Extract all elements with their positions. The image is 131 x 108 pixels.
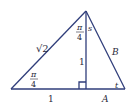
- label-angle-bl-den: 4: [31, 80, 36, 89]
- label-angle-bl-num: π: [30, 70, 37, 79]
- label-base-left: 1: [48, 94, 54, 104]
- side-right: [86, 11, 125, 89]
- label-angle-top-den: 4: [77, 33, 82, 42]
- label-sqrt2: √2: [36, 43, 49, 54]
- right-angle-mark: [79, 82, 86, 89]
- label-altitude: 1: [79, 57, 85, 67]
- label-s: s: [88, 24, 92, 33]
- triangle-diagram: √2 π 4 π 4 s 1 B t 1 A: [0, 0, 131, 108]
- label-angle-top-num: π: [76, 23, 83, 32]
- label-B: B: [111, 47, 119, 57]
- label-A: A: [101, 94, 109, 104]
